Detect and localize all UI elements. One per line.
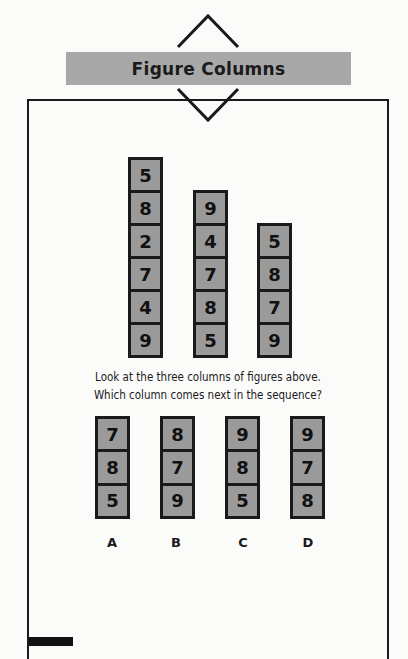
option-d-label[interactable]: D	[298, 535, 318, 550]
option-d-column[interactable]: 9 7 8	[290, 416, 325, 519]
figure-cell: 5	[98, 486, 127, 516]
figure-cell: 9	[260, 325, 289, 355]
figure-cell: 4	[131, 292, 160, 322]
figure-cell: 7	[293, 452, 322, 482]
figure-cell: 8	[293, 486, 322, 516]
option-c-label[interactable]: C	[233, 535, 253, 550]
figure-cell: 5	[131, 160, 160, 190]
figure-cell: 8	[98, 452, 127, 482]
option-b-label[interactable]: B	[166, 535, 186, 550]
option-c-column[interactable]: 9 8 5	[225, 416, 260, 519]
question-text: Look at the three columns of figures abo…	[60, 368, 356, 404]
title-banner: Figure Columns	[66, 52, 351, 85]
figure-cell: 9	[163, 486, 192, 516]
figure-cell: 9	[228, 419, 257, 449]
question-line-1: Look at the three columns of figures abo…	[60, 368, 356, 386]
question-line-2: Which column comes next in the sequence?	[60, 386, 356, 404]
option-a-label[interactable]: A	[102, 535, 122, 550]
figure-cell: 8	[228, 452, 257, 482]
page-title: Figure Columns	[132, 59, 286, 79]
figure-cell: 9	[196, 193, 225, 223]
chevron-up-icon	[178, 16, 238, 47]
figure-cell: 8	[163, 419, 192, 449]
option-b-column[interactable]: 8 7 9	[160, 416, 195, 519]
option-a-column[interactable]: 7 8 5	[95, 416, 130, 519]
figure-cell: 7	[98, 419, 127, 449]
figure-cell: 7	[131, 259, 160, 289]
figure-cell: 9	[131, 325, 160, 355]
figure-cell: 7	[196, 259, 225, 289]
sequence-column-1: 5 8 2 7 4 9	[128, 157, 163, 358]
figure-cell: 5	[196, 325, 225, 355]
figure-cell: 8	[131, 193, 160, 223]
sequence-column-2: 9 4 7 8 5	[193, 190, 228, 358]
figure-cell: 9	[293, 419, 322, 449]
figure-cell: 8	[260, 259, 289, 289]
figure-cell: 8	[196, 292, 225, 322]
figure-cell: 4	[196, 226, 225, 256]
figure-cell: 5	[260, 226, 289, 256]
figure-cell: 7	[260, 292, 289, 322]
sequence-column-3: 5 8 7 9	[257, 223, 292, 358]
figure-cell: 2	[131, 226, 160, 256]
page-corner-marker	[29, 637, 73, 646]
figure-cell: 5	[228, 486, 257, 516]
figure-cell: 7	[163, 452, 192, 482]
